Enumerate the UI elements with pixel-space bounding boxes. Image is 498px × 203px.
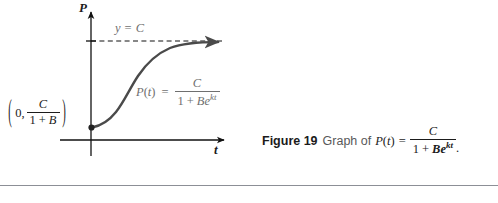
caption-formula-denominator: 1+Bekt [410,139,456,156]
caption-formula-den-exponent: kt [446,140,453,150]
curve-equation-fraction: C 1+Bekt [175,77,220,107]
caption-formula-paren-close: ) [391,135,395,148]
intercept-numerator: C [27,98,60,112]
curve-equation-numerator: C [175,77,220,91]
caption-formula-fraction: C 1+Bekt [410,125,456,155]
curve-equation-label: P(t)= C 1+Bekt [136,78,220,108]
curve-equation-den-one: 1 [178,94,184,108]
curve-equation-den-plus: + [187,94,194,108]
intercept-paren-open: ( [8,97,12,128]
caption-formula-period: . [456,142,459,157]
asymptote-label: y=C [115,22,144,35]
asymptote-label-equals: = [125,21,132,35]
y-intercept-dot [88,124,94,130]
intercept-denominator: 1+B [27,112,60,127]
curve-equation-p: P [136,85,144,99]
intercept-paren-close: ) [62,97,66,128]
curve-equation-den-exponent: kt [210,92,217,102]
curve-equation-denominator: 1+Bekt [175,91,220,108]
horizontal-axis-label: t [214,143,218,156]
intercept-den-b: B [49,113,57,127]
intercept-point-label: (0, C 1+B ) [8,99,66,127]
caption-lead-text: Graph of [323,134,372,148]
asymptote-label-y: y [115,21,121,35]
asymptote-label-c: C [136,21,144,35]
caption-formula-den-plus: + [422,142,429,156]
figure-caption: Figure 19 Graph of P(t)= C 1+Bekt . [262,126,459,156]
curve-equation-equals: = [161,85,168,99]
caption-formula-equals: = [399,135,406,148]
vertical-axis-label: P [79,1,87,14]
caption-formula-numerator: C [410,125,456,139]
figure-19-container: P t y=C P(t)= C 1+Bekt (0, C 1+B ) Figur… [0,0,498,203]
caption-formula: P(t)= C 1+Bekt . [375,126,459,156]
bottom-divider [0,185,498,186]
caption-figure-number: Figure 19 [262,134,318,148]
caption-formula-den-one: 1 [413,142,419,156]
intercept-den-plus: + [39,113,46,127]
intercept-den-one: 1 [30,113,36,127]
intercept-zero: 0, [15,107,24,120]
caption-formula-p: P [375,135,383,148]
intercept-fraction: C 1+B [27,98,60,126]
curve-equation-paren-close: ) [151,85,155,99]
